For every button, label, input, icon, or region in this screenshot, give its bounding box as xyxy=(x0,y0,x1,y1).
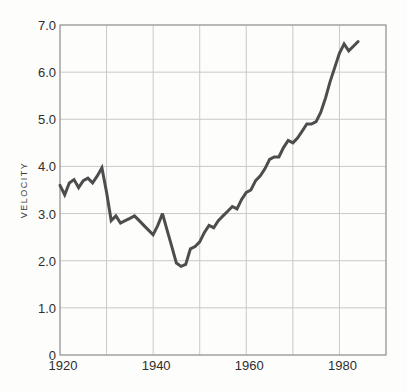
chart-plot-area xyxy=(0,0,407,392)
x-tick-label: 1920 xyxy=(37,359,89,372)
y-tick-label: 2.0 xyxy=(0,255,56,268)
x-tick-label: 1940 xyxy=(130,359,182,372)
y-tick-label: 5.0 xyxy=(0,113,56,126)
plot-frame xyxy=(60,25,386,355)
y-tick-label: 7.0 xyxy=(0,19,56,32)
x-tick-label: 1980 xyxy=(316,359,368,372)
y-tick-label: 1.0 xyxy=(0,302,56,315)
x-tick-label: 1960 xyxy=(223,359,275,372)
velocity-series-line xyxy=(60,42,358,267)
y-tick-label: 4.0 xyxy=(0,160,56,173)
velocity-line-chart: VELOCITY 7.06.05.04.03.02.01.00 19201940… xyxy=(0,0,407,392)
y-tick-label: 3.0 xyxy=(0,208,56,221)
y-tick-label: 6.0 xyxy=(0,66,56,79)
